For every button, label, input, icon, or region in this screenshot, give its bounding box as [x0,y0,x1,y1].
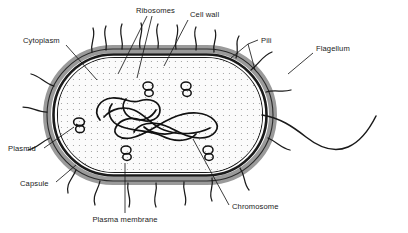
pilus [268,138,290,150]
leader-flagellum [288,53,313,74]
label-plasma-membrane: Plasma membrane [92,215,157,224]
label-capsule: Capsule [20,179,49,188]
leader-pili [248,40,258,44]
diagram-page: Ribosomes Cell wall Cytoplasm Pili Flage… [0,0,408,233]
pilus [31,74,54,86]
pilus [128,183,130,207]
label-plasmid: Plasmid [8,144,36,153]
pilus [157,24,159,48]
label-flagellum: Flagellum [316,44,350,53]
label-pili: Pili [261,36,272,45]
label-ribosomes: Ribosomes [136,6,175,15]
leader-capsule [56,165,76,182]
cytoplasm-region [58,58,262,172]
label-cytoplasm: Cytoplasm [23,36,60,45]
pilus [68,170,76,193]
label-chromosome: Chromosome [232,202,279,211]
pilus [184,182,186,205]
pilus [155,183,157,207]
bacterial-cell-diagram: Ribosomes Cell wall Cytoplasm Pili Flage… [0,0,408,233]
label-cell-wall: Cell wall [190,10,219,19]
pilus [94,181,100,205]
